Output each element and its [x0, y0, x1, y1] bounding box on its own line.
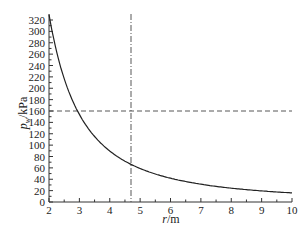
y-tick-label: 0 [40, 196, 46, 208]
y-tick-label: 300 [29, 25, 46, 37]
y-tick-label: 160 [29, 105, 46, 117]
y-tick-label: 80 [34, 151, 46, 163]
y-tick-label: 240 [29, 60, 46, 72]
data-curve [49, 14, 292, 193]
y-tick-label: 320 [29, 14, 46, 26]
x-tick-label: 5 [137, 204, 143, 216]
x-tick-label: 8 [229, 204, 235, 216]
reference-lines [49, 14, 292, 202]
x-tick-label: 7 [198, 204, 204, 216]
y-tick-label: 120 [29, 128, 46, 140]
y-tick-label: 260 [29, 48, 46, 60]
x-tick-label: 10 [287, 204, 299, 216]
y-tick-label: 100 [29, 139, 46, 151]
y-tick-label: 40 [34, 173, 46, 185]
x-tick-label: 9 [259, 204, 265, 216]
y-tick-label: 220 [29, 71, 46, 83]
y-tick-label: 180 [29, 94, 46, 106]
ticks: 2345678910020406080100120140160180200220… [29, 14, 299, 216]
y-tick-label: 20 [34, 185, 46, 197]
y-axis-label: pw/kPa [16, 96, 32, 130]
x-tick-label: 2 [46, 204, 52, 216]
x-axis-label: r/m [162, 212, 180, 226]
y-tick-label: 280 [29, 37, 46, 49]
y-tick-label: 60 [34, 162, 46, 174]
x-tick-label: 4 [107, 204, 113, 216]
chart: 2345678910020406080100120140160180200220… [0, 0, 305, 243]
x-tick-label: 3 [77, 204, 83, 216]
y-tick-label: 200 [29, 82, 46, 94]
axes [49, 14, 292, 202]
